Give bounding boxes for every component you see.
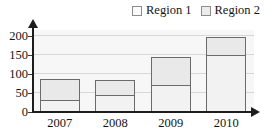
y-axis-tick: 200 — [0, 30, 28, 42]
y-axis-tick-label: 200 — [2, 30, 28, 42]
y-axis-tick-mark — [28, 93, 32, 94]
y-axis-tick-mark — [28, 74, 32, 75]
gridline — [32, 35, 254, 36]
bar-segment-region-2[interactable] — [95, 80, 135, 96]
y-axis-tick-mark — [28, 55, 32, 56]
y-axis-line — [32, 26, 34, 113]
plot-area — [32, 30, 254, 112]
x-axis-line — [32, 111, 252, 113]
bar-group[interactable] — [151, 57, 191, 112]
bar-segment-region-2[interactable] — [40, 79, 80, 101]
bar-segment-region-1[interactable] — [95, 95, 135, 112]
chart-legend: Region 1 Region 2 — [132, 2, 260, 19]
legend-swatch-region-2-icon — [201, 6, 211, 16]
x-axis-tick-label: 2007 — [30, 116, 90, 130]
bar-group[interactable] — [40, 79, 80, 112]
y-axis-tick-label: 150 — [2, 49, 28, 61]
bar-segment-region-1[interactable] — [206, 54, 246, 112]
y-axis-tick: 100 — [0, 68, 28, 80]
y-axis-tick-label: 0 — [2, 106, 28, 118]
bar-segment-region-1[interactable] — [151, 85, 191, 112]
stacked-bar-chart: Region 1 Region 2 050100150200 200720082… — [0, 0, 266, 139]
legend-label-region-2: Region 2 — [215, 4, 260, 17]
x-axis-tick-label: 2010 — [196, 116, 256, 130]
bar-group[interactable] — [206, 37, 246, 112]
y-axis-tick-label: 100 — [2, 68, 28, 80]
y-axis-arrow-icon — [28, 19, 38, 28]
y-axis-tick-mark — [28, 36, 32, 37]
legend-entry-region-1: Region 1 — [132, 4, 191, 17]
x-axis-tick-label: 2008 — [85, 116, 145, 130]
bar-group[interactable] — [95, 80, 135, 112]
bar-segment-region-2[interactable] — [151, 57, 191, 86]
y-axis-tick: 150 — [0, 49, 28, 61]
legend-label-region-1: Region 1 — [146, 4, 191, 17]
y-axis-tick-label: 50 — [2, 87, 28, 99]
y-axis-tick: 0 — [0, 106, 28, 118]
bar-segment-region-2[interactable] — [206, 37, 246, 55]
y-axis-tick: 50 — [0, 87, 28, 99]
x-axis-tick-label: 2009 — [141, 116, 201, 130]
legend-swatch-region-1-icon — [132, 6, 142, 16]
legend-entry-region-2: Region 2 — [201, 4, 260, 17]
